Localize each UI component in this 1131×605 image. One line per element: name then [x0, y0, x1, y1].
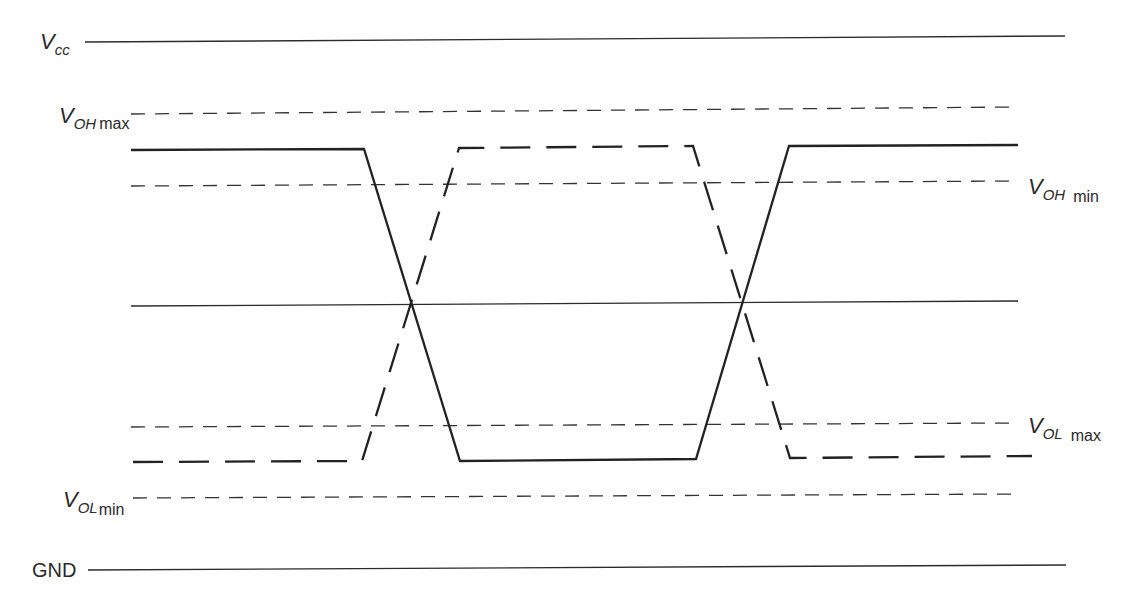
vol-max-label: VOLmax [1028, 415, 1101, 437]
vcc-rail-line [85, 36, 1065, 42]
voh-max-threshold-line [131, 107, 1018, 114]
mid-reference-line [131, 301, 1018, 306]
vol-max-label-qualifier: max [1071, 427, 1101, 444]
voh-max-label: VOHmax [59, 105, 129, 127]
voh-min-label: VOHmin [1028, 176, 1099, 198]
vol-min-label-qualifier: min [99, 501, 125, 518]
vol-min-label-sub: OL [78, 499, 98, 516]
voh-min-label-sub: OH [1043, 186, 1066, 203]
vol-max-threshold-line [131, 423, 1018, 427]
vol-min-label-main: V [63, 487, 78, 512]
voh-min-label-main: V [1028, 174, 1043, 199]
vcc-label: VCC [40, 31, 70, 53]
timing-diagram-canvas [0, 0, 1131, 605]
vcc-label-main: V [40, 29, 55, 54]
voh-max-label-main: V [59, 103, 74, 128]
voh-min-threshold-line [131, 181, 1018, 186]
gnd-label: GND [32, 560, 76, 580]
voh-max-label-sub: OH [74, 115, 97, 132]
gnd-rail-line [88, 565, 1066, 570]
vol-min-threshold-line [133, 494, 1018, 498]
voh-min-label-qualifier: min [1073, 188, 1099, 205]
vol-min-label: VOLmin [63, 489, 124, 511]
vcc-label-sub: CC [55, 41, 70, 58]
vol-max-label-main: V [1028, 413, 1043, 438]
voh-max-label-qualifier: max [99, 115, 129, 132]
vol-max-label-sub: OL [1043, 425, 1063, 442]
